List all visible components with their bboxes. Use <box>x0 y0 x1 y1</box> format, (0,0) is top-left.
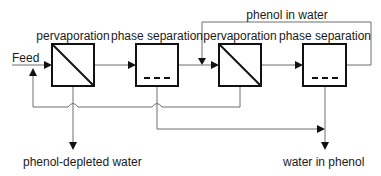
line-perv1-to-sep1 <box>95 61 136 69</box>
phase-dashes-icon <box>312 77 338 79</box>
line-perv2-to-sep2 <box>262 61 303 69</box>
label-feed: Feed <box>12 51 39 65</box>
label-pervaporation-2: pervaporation <box>203 29 276 43</box>
line-phenol-depleted-water <box>69 87 77 150</box>
label-water-in-phenol: water in phenol <box>282 155 364 169</box>
pervaporation-unit-2 <box>219 44 261 86</box>
label-phenol-in-water: phenol in water <box>246 8 327 22</box>
label-pervaporation-1: pervaporation <box>36 29 109 43</box>
phase-separation-unit-2 <box>303 44 346 86</box>
label-phenol-depleted-water: phenol-depleted water <box>23 155 142 169</box>
line-sep1-to-water-in-phenol <box>157 87 325 133</box>
phase-dashes-icon <box>144 77 170 79</box>
label-phase-separation-2: phase separation <box>279 29 371 43</box>
pervaporation-unit-1 <box>52 44 94 86</box>
line-water-in-phenol <box>321 87 329 150</box>
process-flow-diagram: phenol in water Feed pervaporation phase… <box>0 0 381 176</box>
label-phase-separation-1: phase separation <box>111 29 203 43</box>
phase-separation-unit-1 <box>136 44 178 86</box>
line-sep1-to-perv2 <box>179 61 219 69</box>
